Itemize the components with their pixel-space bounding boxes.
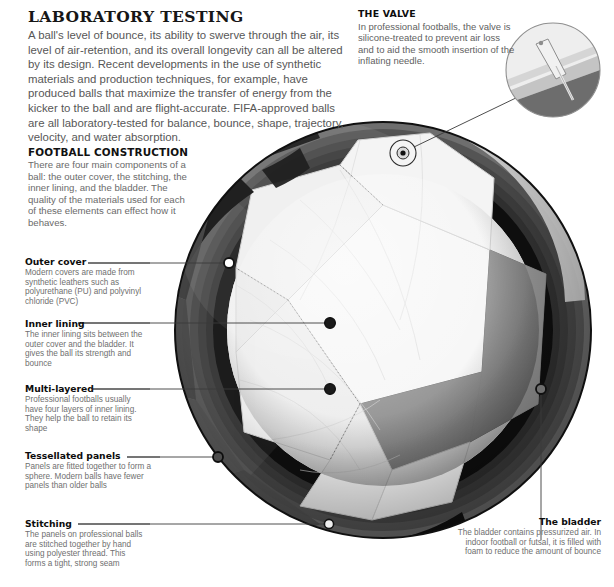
dot-stitching	[324, 519, 333, 528]
the-valve-heading: THE VALVE	[358, 8, 516, 19]
football-construction-heading: FOOTBALL CONSTRUCTION	[28, 146, 194, 158]
callout-stitching: Stitching The panels on professional bal…	[25, 518, 147, 568]
callout-tessellated-panels: Tessellated panels Panels are fitted tog…	[25, 450, 153, 491]
callout-inner-lining-body: The inner lining sits between the outer …	[25, 330, 147, 368]
callout-tessellated-panels-body: Panels are fitted together to form a sph…	[25, 462, 153, 491]
dot-inner-lining	[325, 318, 336, 329]
callout-stitching-heading: Stitching	[25, 518, 147, 529]
laboratory-testing-block: LABORATORY TESTING A ball's level of bou…	[28, 8, 346, 145]
infographic-canvas: LABORATORY TESTING A ball's level of bou…	[0, 0, 614, 587]
laboratory-testing-body: A ball's level of bounce, its ability to…	[28, 28, 346, 145]
dot-bladder	[536, 384, 546, 394]
callout-multi-layered-body: Professional footballs usually have four…	[25, 395, 147, 433]
dot-outer-cover	[224, 258, 234, 268]
dot-tessellated	[213, 452, 223, 462]
callout-stitching-body: The panels on professional balls are sti…	[25, 530, 147, 568]
ball-body	[130, 96, 591, 568]
football-construction-block: FOOTBALL CONSTRUCTION There are four mai…	[28, 146, 194, 229]
laboratory-testing-heading: LABORATORY TESTING	[28, 8, 346, 25]
callout-inner-lining-heading: Inner lining	[25, 318, 147, 329]
callout-outer-cover-body: Modern covers are made from synthetic le…	[25, 268, 147, 306]
the-bladder-body: The bladder contains pressurized air. In…	[455, 528, 601, 557]
the-bladder-block: The bladder The bladder contains pressur…	[455, 516, 601, 557]
callout-inner-lining: Inner lining The inner lining sits betwe…	[25, 318, 147, 368]
callout-multi-layered: Multi-layered Professional footballs usu…	[25, 383, 147, 433]
callout-outer-cover: Outer cover Modern covers are made from …	[25, 256, 147, 306]
the-valve-block: THE VALVE In professional footballs, the…	[358, 8, 516, 67]
callout-tessellated-panels-heading: Tessellated panels	[25, 450, 153, 461]
valve-detail-callout	[506, 23, 600, 117]
dot-multi-layered	[325, 384, 336, 395]
the-bladder-heading: The bladder	[455, 516, 601, 527]
callout-outer-cover-heading: Outer cover	[25, 256, 147, 267]
callout-multi-layered-heading: Multi-layered	[25, 383, 147, 394]
the-valve-body: In professional footballs, the valve is …	[358, 21, 516, 67]
football-construction-body: There are four main components of a ball…	[28, 159, 194, 229]
